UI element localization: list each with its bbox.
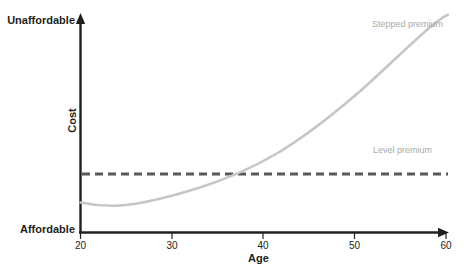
y-axis-high-label: Unaffordable [7, 15, 75, 26]
x-tick-label-40: 40 [248, 241, 278, 251]
y-axis-low-label: Affordable [20, 224, 75, 235]
premium-comparison-chart: Unaffordable Affordable Cost Age 20 30 4… [0, 0, 469, 276]
x-axis [79, 228, 449, 237]
x-tick-label-20: 20 [66, 241, 96, 251]
y-axis-title: Cost [67, 108, 78, 132]
level-premium-annotation-line1: Level premium [373, 145, 432, 155]
x-tick-label-60: 60 [431, 241, 461, 251]
stepped-premium-annotation: Stepped premium [372, 18, 432, 30]
x-axis-title: Age [248, 253, 269, 264]
x-axis-arrow-icon [438, 228, 449, 237]
x-axis-ticks [81, 233, 447, 239]
stepped-premium-series-line [81, 15, 449, 206]
y-axis-arrow-icon [76, 13, 85, 24]
level-premium-annotation: Level premium [372, 144, 432, 156]
x-tick-label-50: 50 [340, 241, 370, 251]
stepped-premium-annotation-line1: Stepped premium [372, 19, 443, 29]
x-tick-label-30: 30 [157, 241, 187, 251]
